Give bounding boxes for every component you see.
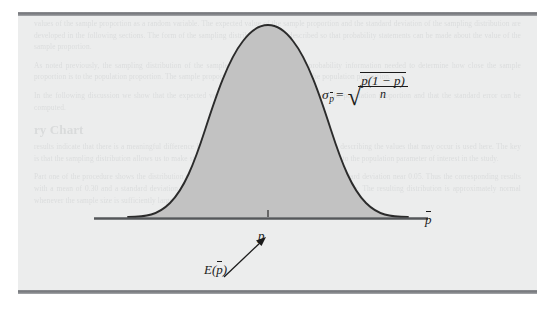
- fraction-denominator: n: [360, 88, 405, 101]
- expected-value-variable: p: [216, 262, 223, 278]
- expected-value-close: ): [223, 262, 227, 277]
- population-proportion-label: p: [258, 228, 265, 244]
- radical-group: √p(1 − p)n: [347, 82, 408, 107]
- expected-value-label: E(p): [204, 262, 227, 278]
- bell-curve-svg: [18, 12, 537, 293]
- figure-root: values of the sample proportion as a ran…: [0, 0, 537, 312]
- bell-curve-plot: [18, 12, 537, 293]
- population-proportion-text: p: [258, 228, 265, 243]
- normal-curve-fill: [128, 25, 408, 217]
- expected-value-open: E(: [204, 262, 216, 277]
- sigma-symbol: σ: [322, 87, 329, 102]
- fraction-numerator: p(1 − p): [360, 72, 405, 88]
- x-axis-label: p: [425, 212, 432, 228]
- x-axis-label-text: p: [425, 212, 432, 228]
- equals-sign: =: [336, 87, 344, 102]
- sigma-subscript-pbar: p: [329, 94, 334, 104]
- fraction-group: p(1 − p)n: [358, 86, 407, 101]
- standard-error-formula: σp=√p(1 − p)n: [322, 83, 408, 108]
